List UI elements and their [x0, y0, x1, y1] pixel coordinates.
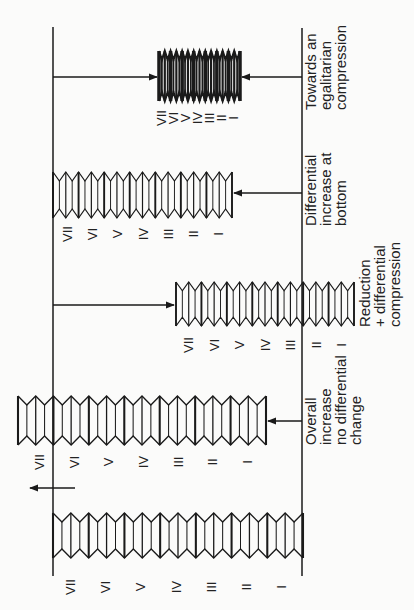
rank-label: V	[101, 457, 116, 466]
accordion-differential-increase	[53, 172, 232, 218]
rank-label: IV	[136, 228, 151, 241]
rank-label: IV	[258, 339, 273, 352]
rank-label: II	[186, 230, 201, 237]
rank-label: VI	[67, 456, 82, 468]
rank-label: VII	[32, 454, 47, 470]
svg-text:Towards anegalitariancompressi: Towards anegalitariancompression	[302, 25, 349, 110]
svg-text:Differentialincrease atbottom: Differentialincrease atbottom	[302, 152, 349, 226]
rank-label: IV	[169, 581, 184, 594]
accordion-reduction	[176, 282, 354, 326]
rank-label: I	[334, 343, 349, 347]
rank-label: VII	[60, 226, 75, 242]
rank-label: I	[240, 460, 255, 464]
rank-labels-baseline: VIIVIVIVIIIIII	[63, 579, 289, 595]
rank-labels-egalitarian: VIIVIVIVIIIIII	[154, 110, 241, 126]
rank-label: II	[239, 583, 254, 590]
caption-overall-increase: Overallincreaseno differentialchange	[302, 355, 364, 445]
rank-label: III	[204, 582, 219, 593]
rank-label: V	[133, 582, 148, 591]
rank-label: I	[274, 585, 289, 589]
rank-label: VI	[207, 339, 222, 351]
rank-label: II	[309, 341, 324, 348]
rank-label: VII	[181, 337, 196, 353]
caption-egalitarian: Towards anegalitariancompression	[302, 25, 349, 110]
svg-text:Overallincreaseno differential: Overallincreaseno differentialchange	[302, 355, 364, 445]
rank-label: II	[205, 458, 220, 465]
accordion-diagram: VIIVIVIVIIIIII VIIVIVIVIIIIII VIIVIVIVII…	[0, 0, 414, 610]
accordion-baseline	[53, 513, 303, 558]
caption-differential-increase: Differentialincrease atbottom	[302, 152, 349, 226]
rank-label: I	[226, 116, 241, 120]
accordion-egalitarian	[159, 51, 240, 101]
rank-label: V	[232, 340, 247, 349]
rank-labels-reduction: VIIVIVIVIIIIII	[181, 337, 349, 353]
svg-text:Reduction+ differentialcompres: Reduction+ differentialcompression	[356, 242, 403, 327]
rank-label: V	[110, 229, 125, 238]
rank-label: VII	[63, 579, 78, 595]
rank-labels-overall-increase: VIIVIVIVIIIIII	[32, 454, 255, 470]
accordion-overall-increase	[18, 396, 266, 445]
rank-label: VI	[98, 581, 113, 593]
rank-label: VI	[85, 228, 100, 240]
rank-label: I	[211, 232, 226, 236]
rank-label: III	[171, 457, 186, 468]
rank-label: IV	[136, 456, 151, 469]
caption-reduction: Reduction+ differentialcompression	[356, 242, 403, 327]
rank-label: III	[161, 229, 176, 240]
rank-labels-differential-increase: VIIVIVIVIIIIII	[60, 226, 226, 242]
rank-label: III	[283, 340, 298, 351]
